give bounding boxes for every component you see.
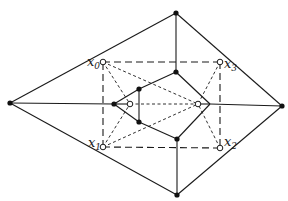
label-x1: x1 xyxy=(88,135,101,152)
spokes xyxy=(10,13,282,195)
vertex-right xyxy=(279,103,284,108)
point-inner-right xyxy=(195,101,201,107)
point-x0 xyxy=(100,59,106,65)
vertex-top xyxy=(173,10,178,15)
label-x3: x3 xyxy=(224,56,237,73)
filled-vertices xyxy=(7,10,284,197)
dashed-square xyxy=(103,62,220,148)
dashed-diagonals xyxy=(103,62,220,148)
point-x3 xyxy=(217,59,223,65)
vertex-inner-bottom xyxy=(174,136,179,141)
open-points xyxy=(100,59,223,151)
vertex-inner-top xyxy=(173,69,178,74)
vertex-bottom xyxy=(174,192,179,197)
graph-diagram: x0 x3 x1 x2 xyxy=(0,0,288,201)
vertex-left xyxy=(7,100,12,105)
point-x2 xyxy=(217,145,223,151)
outer-quadrilateral xyxy=(10,13,282,195)
point-inner-left xyxy=(127,101,133,107)
vertex-inner-upper-left xyxy=(136,86,141,91)
label-x0: x0 xyxy=(87,54,100,71)
vertex-inner-left xyxy=(111,101,116,106)
vertex-inner-lower-left xyxy=(136,119,141,124)
label-x2: x2 xyxy=(224,134,237,151)
